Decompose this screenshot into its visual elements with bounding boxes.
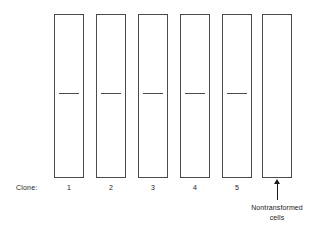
arrow-shaft [277, 183, 278, 200]
gel-lane-6-control [262, 14, 292, 178]
gel-lane-3 [138, 14, 168, 178]
gel-lane-4 [180, 14, 210, 178]
lane-number-1: 1 [54, 184, 84, 192]
lane-number-4: 4 [180, 184, 210, 192]
nontransformed-label-line1: Nontransformed [237, 203, 317, 212]
lane-number-5: 5 [222, 184, 252, 192]
gel-lane-2 [96, 14, 126, 178]
gel-lane-5 [222, 14, 252, 178]
gel-band-2 [101, 93, 121, 94]
clone-row-label: Clone: [16, 184, 37, 192]
gel-lane-1 [54, 14, 84, 178]
gel-band-5 [227, 93, 247, 94]
lane-number-2: 2 [96, 184, 126, 192]
gel-band-4 [185, 93, 205, 94]
gel-lane-figure: Clone: 1 2 3 4 5 Nontransformed cells [0, 0, 321, 240]
lane-number-3: 3 [138, 184, 168, 192]
nontransformed-label-line2: cells [237, 213, 317, 222]
gel-band-3 [143, 93, 163, 94]
gel-band-1 [59, 93, 79, 94]
